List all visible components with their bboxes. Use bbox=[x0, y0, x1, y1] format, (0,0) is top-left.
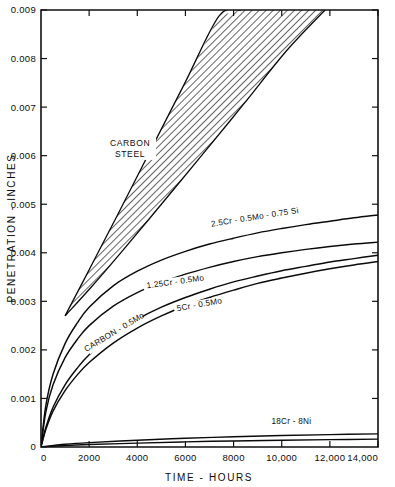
y-tick-label: 0.001 bbox=[11, 393, 36, 404]
chart-container: CARBONSTEEL 00.0010.0020.0030.0040.0050.… bbox=[0, 0, 395, 487]
penetration-vs-time-chart: CARBONSTEEL 00.0010.0020.0030.0040.0050.… bbox=[0, 0, 395, 487]
carbon-steel-label-line1: CARBON bbox=[110, 138, 150, 148]
y-axis-title: PENETRATION - INCHES bbox=[6, 153, 17, 302]
x-tick-label: 4000 bbox=[126, 452, 148, 463]
x-tick-label: 12,000 bbox=[314, 452, 345, 463]
y-tick-label: 0.002 bbox=[11, 344, 36, 355]
y-tick-label: 0.007 bbox=[11, 102, 36, 113]
x-tick-label: 8000 bbox=[222, 452, 244, 463]
carbon-steel-label-line2: STEEL bbox=[115, 149, 145, 159]
x-tick-label: 14,000 bbox=[347, 452, 378, 463]
y-tick-label: 0 bbox=[30, 441, 36, 452]
x-tick-label: 10,000 bbox=[266, 452, 297, 463]
x-tick-label: 0 bbox=[41, 452, 47, 463]
x-tick-label: 2000 bbox=[78, 452, 100, 463]
y-tick-label: 0.009 bbox=[11, 4, 36, 15]
curve-label-18cr-8ni: 18Cr - 8Ni bbox=[271, 417, 311, 426]
x-axis-title: TIME - HOURS bbox=[165, 472, 253, 483]
x-tick-label: 6000 bbox=[174, 452, 196, 463]
y-tick-label: 0.008 bbox=[11, 53, 36, 64]
